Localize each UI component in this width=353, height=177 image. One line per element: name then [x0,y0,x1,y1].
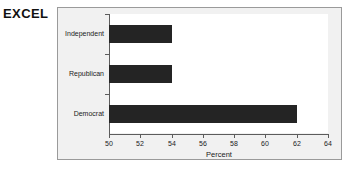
excel-caption: EXCEL [3,6,48,21]
x-tick [203,134,204,138]
x-tick-label: 60 [252,139,278,149]
x-axis-title: Percent [109,150,329,160]
x-tick [172,134,173,138]
x-tick [328,134,329,138]
category-tick [105,54,109,55]
category-tick [105,14,109,15]
x-tick-label: 58 [221,139,247,149]
x-tick [109,134,110,138]
x-tick [234,134,235,138]
x-tick [265,134,266,138]
category-axis-line [109,134,329,135]
x-tick-label: 56 [190,139,216,149]
x-tick-label: 64 [315,139,341,149]
x-tick-label: 50 [96,139,122,149]
category-tick [105,94,109,95]
x-tick [140,134,141,138]
category-label-republican: Republican [44,65,104,83]
bar-independent: Independent [109,25,172,43]
x-tick-label: 52 [127,139,153,149]
category-label-independent: Independent [44,25,104,43]
x-tick-label: 54 [159,139,185,149]
chart-frame: IndependentRepublicanDemocrat 5052545658… [57,7,342,160]
x-tick-label: 62 [284,139,310,149]
x-tick [297,134,298,138]
bar-democrat: Democrat [109,105,297,123]
bar-republican: Republican [109,65,172,83]
category-label-democrat: Democrat [44,105,104,123]
